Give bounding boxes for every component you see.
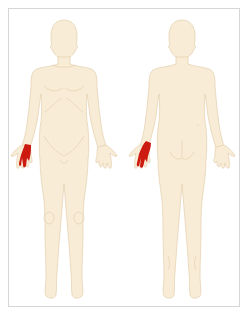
back-hand-left (214, 145, 235, 168)
front-head (51, 20, 78, 59)
front-hand-left (96, 145, 117, 168)
back-body (140, 57, 224, 298)
front-body (22, 57, 106, 298)
body-diagram (0, 0, 245, 316)
back-head (169, 20, 196, 59)
front-figure[interactable] (11, 20, 117, 298)
